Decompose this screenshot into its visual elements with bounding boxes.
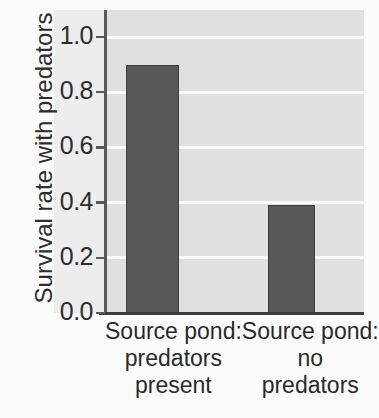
x-axis-category-label-line: predators: [105, 345, 242, 372]
gridline: [105, 36, 364, 39]
y-axis-tick: [96, 201, 105, 204]
x-axis-category-labels: Source pond:predatorspresentSource pond:…: [105, 318, 364, 418]
x-axis-category-label: Source pond:nopredators: [242, 318, 379, 418]
bar: [126, 65, 179, 313]
y-axis-tick: [96, 257, 105, 260]
x-axis-line: [99, 312, 364, 315]
y-axis-tick: [96, 91, 105, 94]
y-axis-title: Survival rate with predators: [30, 8, 58, 308]
y-axis-tick: [96, 36, 105, 39]
x-axis-category-label: Source pond:predatorspresent: [105, 318, 242, 418]
x-axis-category-label-line: present: [105, 372, 242, 399]
y-axis-tick: [96, 146, 105, 149]
x-axis-category-label-line: no: [242, 345, 379, 372]
plot-area: [105, 10, 364, 313]
x-axis-category-label-line: Source pond:: [105, 318, 242, 345]
x-axis-category-label-line: Source pond:: [242, 318, 379, 345]
x-axis-category-label-line: predators: [242, 372, 379, 399]
y-axis-tick: [96, 312, 105, 315]
y-axis-line: [104, 10, 107, 314]
bar: [268, 205, 315, 313]
plot-inner: [105, 10, 364, 313]
